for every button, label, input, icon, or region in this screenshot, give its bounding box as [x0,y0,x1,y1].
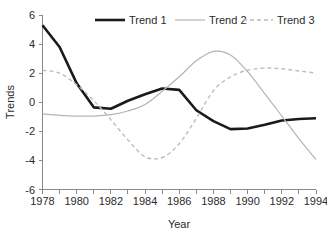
x-tick-label: 1984 [133,195,157,207]
x-axis-ticks [43,190,317,194]
series-lines [43,25,317,160]
x-tick-label: 1990 [235,195,259,207]
y-tick-label: -4 [25,154,35,166]
x-tick-label: 1994 [304,195,327,207]
x-tick-label: 1980 [64,195,88,207]
chart-canvas: 6420-2-4-6 19781980198219841986198819901… [0,0,327,234]
y-axis-ticks [39,15,43,190]
legend-label-2: Trend 2 [209,14,247,26]
legend-label-1: Trend 1 [129,14,167,26]
y-axis-tick-labels: 6420-2-4-6 [25,9,35,196]
chart-legend: Trend 1Trend 2Trend 3 [95,14,315,26]
y-tick-label: 4 [29,38,35,50]
y-tick-label: 2 [29,67,35,79]
y-tick-label: -6 [25,184,35,196]
y-tick-label: -2 [25,125,35,137]
x-axis-tick-labels: 197819801982198419861988199019921994 [30,195,327,207]
chart-container: 6420-2-4-6 19781980198219841986198819901… [0,0,327,234]
y-tick-label: 0 [29,96,35,108]
x-axis-title: Year [168,218,191,230]
x-tick-label: 1986 [167,195,191,207]
y-tick-label: 6 [29,9,35,21]
x-tick-label: 1982 [99,195,123,207]
x-tick-label: 1978 [30,195,54,207]
x-tick-label: 1988 [201,195,225,207]
series-line-3 [43,68,317,159]
x-tick-label: 1992 [270,195,294,207]
y-axis-title: Trends [4,85,16,119]
legend-label-3: Trend 3 [277,14,315,26]
